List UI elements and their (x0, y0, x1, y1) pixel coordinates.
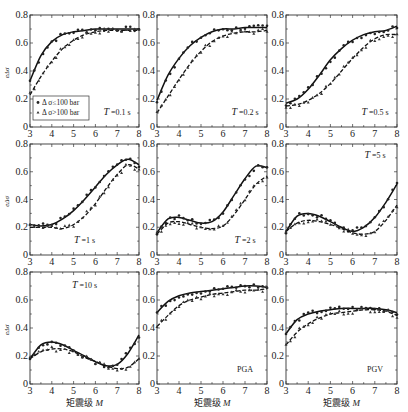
curve-low-stress (30, 29, 139, 81)
marker-circle (391, 25, 394, 28)
x-tick-label: 3 (28, 128, 33, 139)
y-tick-label: 0.4 (143, 65, 156, 76)
marker-triangle (160, 230, 163, 233)
marker-circle (369, 32, 372, 35)
marker-triangle (311, 96, 314, 99)
marker-circle (187, 219, 190, 222)
marker-triangle (138, 168, 141, 171)
marker-circle (378, 210, 381, 213)
y-tick-label: 0.2 (143, 93, 156, 104)
marker-triangle (244, 291, 247, 294)
marker-circle (235, 26, 238, 29)
marker-triangle (37, 350, 40, 353)
curve-low-stress (286, 26, 397, 103)
marker-circle (329, 61, 332, 64)
marker-circle (165, 79, 168, 82)
panel-pga: 34567800.20.40.60.8PGA矩震级 M (143, 266, 270, 408)
chart-figure: 34567800.20.40.60.8eΔσT =0.1 sΔ σ≤100 ba… (0, 0, 408, 412)
marker-circle (98, 27, 101, 30)
panel-title: T =2 s (234, 234, 255, 245)
marker-circle (173, 218, 176, 221)
marker-circle (396, 27, 399, 30)
marker-circle (338, 306, 341, 309)
marker-triangle (364, 46, 367, 49)
y-tick-label: 0.8 (272, 266, 285, 277)
x-tick-label: 5 (71, 256, 76, 267)
panel-t-1-s: 34567800.20.40.60.8eΔσT =1 s (3, 138, 142, 267)
marker-triangle (347, 312, 350, 315)
x-tick-label: 4 (306, 256, 311, 267)
y-tick-label: 0.4 (272, 322, 285, 333)
y-tick-label: 0.4 (143, 194, 156, 205)
marker-circle (369, 221, 372, 224)
marker-circle (378, 307, 381, 310)
marker-triangle (50, 345, 53, 348)
marker-circle (213, 287, 216, 290)
x-tick-label: 4 (49, 385, 54, 396)
marker-circle (156, 101, 159, 104)
y-tick-label: 0.6 (272, 37, 285, 48)
marker-circle (257, 164, 260, 167)
y-tick-label: 0 (23, 249, 28, 260)
marker-triangle (298, 327, 301, 330)
x-tick-label: 5 (328, 256, 333, 267)
marker-triangle (169, 223, 172, 226)
panel-t-5-s: 34567800.20.40.60.8T =5 s (272, 138, 400, 267)
legend: Δ σ≤100 barΔ σ>100 bar (33, 96, 89, 120)
y-tick-label: 0 (279, 378, 284, 389)
marker-circle (320, 311, 323, 314)
x-tick-label: 4 (177, 256, 182, 267)
x-tick-label: 7 (115, 128, 120, 139)
marker-circle (182, 295, 185, 298)
marker-circle (298, 319, 301, 322)
marker-circle (72, 207, 75, 210)
marker-circle (77, 204, 80, 207)
marker-circle (68, 32, 71, 35)
marker-triangle (342, 65, 345, 68)
marker-circle (173, 299, 176, 302)
marker-triangle (208, 292, 211, 295)
y-axis-label: eΔσ (3, 67, 11, 78)
x-tick-label: 8 (395, 128, 400, 139)
marker-circle (347, 41, 350, 44)
marker-triangle (257, 288, 260, 291)
marker-triangle (329, 82, 332, 85)
marker-triangle (68, 351, 71, 354)
marker-triangle (396, 33, 399, 36)
marker-circle (347, 308, 350, 311)
marker-triangle (257, 28, 260, 31)
panel-t-0-1-s: 34567800.20.40.60.8eΔσT =0.1 sΔ σ≤100 ba… (3, 9, 142, 139)
marker-triangle (55, 350, 58, 353)
y-tick-label: 0.2 (272, 350, 285, 361)
curve-low-stress (30, 159, 139, 226)
x-tick-label: 3 (28, 385, 33, 396)
marker-circle (285, 333, 288, 336)
marker-triangle (72, 38, 75, 41)
marker-circle (160, 90, 163, 93)
marker-circle (33, 69, 36, 72)
marker-circle (222, 212, 225, 215)
marker-circle (294, 217, 297, 220)
marker-circle (231, 286, 234, 289)
y-tick-label: 0.2 (272, 221, 285, 232)
marker-circle (307, 311, 310, 314)
marker-circle (334, 56, 337, 59)
y-tick-label: 0.2 (16, 221, 29, 232)
marker-circle (55, 40, 58, 43)
marker-triangle (124, 368, 127, 371)
marker-circle (178, 214, 181, 217)
panel-title: T =1 s (74, 234, 95, 245)
marker-circle (222, 287, 225, 290)
marker-triangle (289, 106, 292, 109)
marker-triangle (164, 98, 167, 101)
marker-circle (298, 95, 301, 98)
marker-circle (253, 283, 256, 286)
marker-circle (59, 217, 62, 220)
panel-grid: 34567800.20.40.60.8eΔσT =0.1 sΔ σ≤100 ba… (3, 9, 400, 408)
marker-circle (351, 229, 354, 232)
y-tick-label: 0.6 (143, 294, 156, 305)
marker-circle (129, 25, 132, 28)
marker-circle (374, 33, 377, 36)
marker-triangle (396, 316, 399, 319)
y-tick-label: 0 (150, 378, 155, 389)
